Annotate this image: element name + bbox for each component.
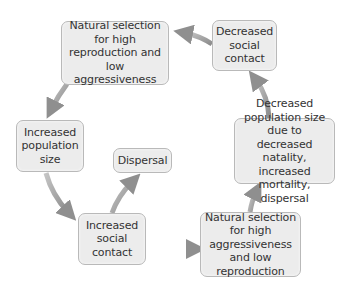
node-decreased-social-contact: Decreased social contact [212, 20, 277, 71]
node-selection-high-reproduction: Natural selection for high reproduction … [61, 21, 169, 85]
population-cycle-diagram: Natural selection for high reproduction … [0, 0, 348, 287]
arrow-n3-to-n5 [46, 173, 68, 212]
node-label: Decreased population size due to decreas… [238, 97, 331, 205]
arrow-n1-to-n3 [52, 84, 67, 108]
node-increased-population-size: Increased population size [16, 120, 84, 172]
arrow-n2-to-n1 [185, 33, 212, 44]
node-label: Natural selection for high aggressivenes… [204, 211, 297, 279]
node-label: Increased population size [20, 126, 80, 167]
node-label: Dispersal [118, 154, 168, 168]
node-label: Decreased social contact [216, 25, 273, 66]
node-increased-social-contact: Increased social contact [78, 213, 146, 265]
node-dispersal: Dispersal [113, 148, 172, 173]
arrow-n5-to-n4 [112, 182, 132, 213]
node-decreased-population-size: Decreased population size due to decreas… [234, 118, 335, 184]
node-label: Increased social contact [82, 219, 142, 260]
node-label: Natural selection for high reproduction … [65, 19, 165, 87]
node-selection-high-aggressiveness: Natural selection for high aggressivenes… [200, 212, 301, 277]
